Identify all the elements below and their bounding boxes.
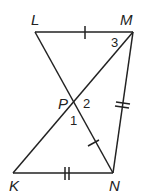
angle-2-label: 2: [83, 96, 90, 111]
angle-3-label: 3: [111, 35, 118, 50]
label-M: M: [120, 11, 133, 28]
label-K: K: [9, 177, 20, 194]
label-L: L: [31, 11, 39, 28]
geometry-diagram: L M P K N 3 2 1: [0, 0, 146, 195]
double-tick-mark-MN-1: [116, 102, 130, 104]
angle-1-label: 1: [70, 113, 77, 128]
double-tick-mark-MN-2: [115, 106, 129, 108]
label-N: N: [109, 177, 120, 194]
label-P: P: [58, 95, 68, 112]
segment-LN: [35, 32, 113, 173]
segment-MK: [13, 32, 133, 173]
